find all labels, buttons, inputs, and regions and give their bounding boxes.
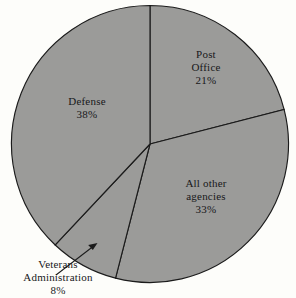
slice-label-veterans-line2: Administration bbox=[2, 271, 114, 284]
slice-label-all-other-line2: agencies bbox=[166, 190, 246, 203]
slice-label-all-other-line1: All other bbox=[166, 177, 246, 190]
slice-value-all-other-agencies: 33% bbox=[166, 203, 246, 216]
slice-label-post-office-line2: Office bbox=[173, 61, 239, 74]
slice-value-defense: 38% bbox=[51, 108, 123, 121]
slice-label-veterans-administration: Veterans Administration 8% bbox=[2, 258, 114, 296]
pie-chart-graphic bbox=[0, 0, 296, 298]
slice-label-defense: Defense 38% bbox=[51, 95, 123, 121]
slice-value-post-office: 21% bbox=[173, 74, 239, 87]
slice-label-veterans-line1: Veterans bbox=[2, 258, 114, 271]
slice-value-veterans-administration: 8% bbox=[2, 284, 114, 297]
slice-label-post-office-line1: Post bbox=[173, 48, 239, 61]
slice-label-all-other-agencies: All other agencies 33% bbox=[166, 177, 246, 215]
slice-label-post-office: Post Office 21% bbox=[173, 48, 239, 86]
pie-slices bbox=[12, 6, 289, 283]
slice-label-defense-line1: Defense bbox=[51, 95, 123, 108]
pie-chart: Post Office 21% Defense 38% All other ag… bbox=[0, 0, 296, 298]
